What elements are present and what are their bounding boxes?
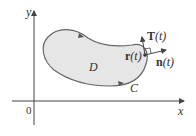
y-axis-label: y	[26, 6, 31, 18]
point-label: r(t)	[125, 50, 142, 62]
curve-label-c: C	[130, 82, 138, 94]
diagram-canvas: y 0 x D C r(t) T(t) n(t)	[0, 0, 196, 136]
tangent-label: T(t)	[147, 30, 166, 42]
normal-label: n(t)	[156, 56, 174, 68]
x-axis-label: x	[178, 105, 183, 117]
origin-label: 0	[26, 105, 32, 116]
region-label-d: D	[89, 61, 98, 73]
